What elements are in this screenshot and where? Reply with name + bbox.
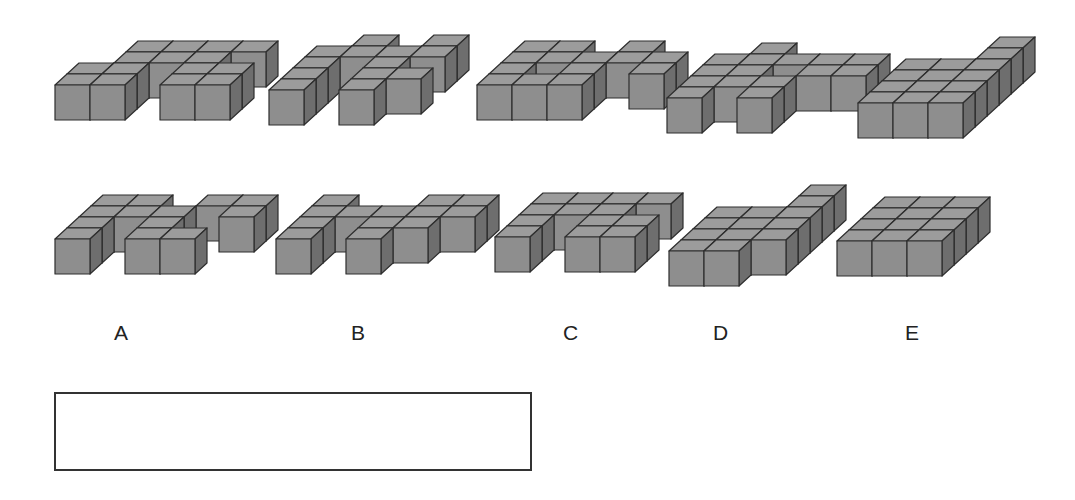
cube-figure-D bbox=[668, 184, 849, 289]
cube bbox=[90, 74, 137, 120]
cube-figure-q1 bbox=[54, 40, 281, 123]
cube bbox=[346, 228, 393, 274]
answer-box[interactable] bbox=[54, 392, 532, 471]
cube bbox=[704, 240, 751, 286]
cube bbox=[276, 228, 323, 274]
cube bbox=[440, 206, 487, 252]
cube-figure-B bbox=[275, 194, 502, 277]
cube bbox=[55, 228, 102, 274]
cube bbox=[600, 226, 647, 272]
cube bbox=[393, 217, 440, 263]
cube bbox=[160, 228, 207, 274]
cube bbox=[737, 87, 784, 133]
cube-figure-C bbox=[494, 192, 686, 275]
option-label-e[interactable]: E bbox=[905, 322, 919, 343]
cube bbox=[339, 79, 386, 125]
cube bbox=[495, 226, 542, 272]
cube bbox=[219, 206, 266, 252]
option-label-b[interactable]: B bbox=[351, 322, 365, 343]
cube bbox=[928, 92, 975, 138]
cube bbox=[195, 74, 242, 120]
option-label-c[interactable]: C bbox=[563, 322, 578, 343]
cube-figure-q5 bbox=[857, 36, 1038, 141]
cube-figure-E bbox=[836, 196, 993, 279]
option-label-d[interactable]: D bbox=[713, 322, 728, 343]
cube bbox=[667, 87, 714, 133]
cube-figure-A bbox=[54, 194, 281, 277]
option-label-a[interactable]: A bbox=[114, 322, 128, 343]
cube bbox=[386, 68, 433, 114]
cube bbox=[547, 74, 594, 120]
cube bbox=[269, 79, 316, 125]
cube bbox=[751, 229, 798, 275]
cube-figure-q2 bbox=[268, 34, 472, 128]
cube bbox=[907, 230, 954, 276]
